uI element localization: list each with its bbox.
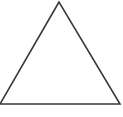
figure-canvas <box>0 0 123 117</box>
triangle-drawing <box>0 0 123 117</box>
canvas-background <box>0 0 123 117</box>
